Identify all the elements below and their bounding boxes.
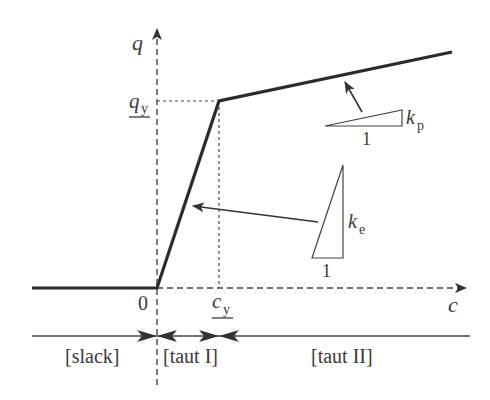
svg-text:y: y (223, 302, 230, 317)
force-extension-diagram: q c 0 q y c y 1 k p 1 k e [slack] [taut … (0, 0, 490, 400)
svg-text:c: c (212, 289, 222, 313)
svg-text:q: q (129, 89, 140, 113)
svg-text:p: p (417, 118, 424, 133)
yield-force-label: q y (129, 89, 150, 117)
x-axis-label: c (448, 292, 458, 317)
yield-extension-label: c y (212, 289, 233, 318)
elastic-stiffness-triangle: 1 k e (312, 165, 365, 281)
origin-label: 0 (138, 292, 148, 314)
elastic-pointer-arrow (193, 206, 318, 222)
svg-text:y: y (141, 101, 148, 116)
plastic-pointer-arrow (345, 82, 362, 112)
svg-text:e: e (359, 222, 365, 237)
svg-text:k: k (406, 106, 416, 128)
y-axis-label: q (132, 30, 143, 55)
svg-text:k: k (348, 210, 358, 232)
region-label-taut-2: [taut II] (311, 345, 373, 367)
region-label-slack: [slack] (65, 345, 119, 367)
force-curve (32, 52, 452, 288)
region-label-taut-1: [taut I] (163, 345, 218, 367)
svg-text:1: 1 (322, 261, 331, 281)
plastic-stiffness-triangle: 1 k p (325, 106, 424, 149)
svg-text:1: 1 (362, 129, 371, 149)
